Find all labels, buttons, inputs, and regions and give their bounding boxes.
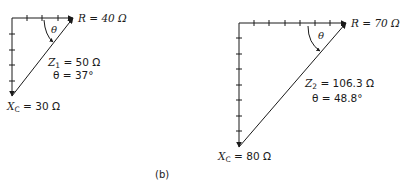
right-z-label: Z2 = 106.3 Ω [305, 78, 374, 91]
left-z-value: = 50 Ω [60, 56, 100, 68]
left-theta-symbol: θ [51, 25, 57, 35]
left-theta-label: θ = 37° [53, 70, 94, 81]
left-r-label: R = 40 Ω [78, 13, 127, 24]
right-xc-label: XC = 80 Ω [218, 151, 271, 164]
left-z-label: Z1 = 50 Ω [48, 57, 100, 70]
right-z-value: = 106.3 Ω [317, 77, 374, 89]
right-theta-label: θ = 48.8° [312, 93, 363, 104]
left-xc-label: XC = 30 Ω [7, 101, 60, 114]
right-theta-symbol: θ [318, 31, 324, 41]
left-xc-value: = 30 Ω [20, 100, 60, 112]
figure-label: (b) [155, 170, 169, 180]
right-xc-value: = 80 Ω [231, 150, 271, 162]
right-r-label: R = 70 Ω [351, 18, 400, 29]
